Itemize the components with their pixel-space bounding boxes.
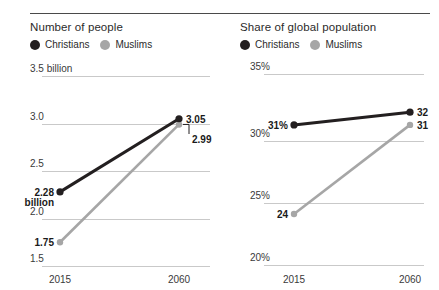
series-point-christians-2015 [56, 188, 63, 195]
series-point-christians-2060-share [406, 109, 413, 116]
legend-label-muslims: Muslims [325, 39, 362, 50]
datapoint-label-1-75: 1.75 [35, 237, 54, 248]
legend-dot-christians-icon [30, 40, 40, 50]
chart-page: Number of people Christians Muslims 3.5 … [0, 0, 439, 290]
panel-title-number-of-people: Number of people [30, 21, 123, 33]
legend-label-muslims: Muslims [115, 39, 152, 50]
datapoint-label-31pct: 31% [268, 119, 288, 130]
datapoint-label-2-28: 2.28 [35, 186, 54, 197]
series-point-muslims-2015 [57, 239, 63, 245]
legend-share-of-global-population: Christians Muslims [240, 39, 362, 50]
series-line-christians [60, 119, 179, 192]
series-line-christians-share [294, 112, 410, 125]
datapoint-label-31: 31 [417, 119, 428, 130]
series-line-muslims-share [294, 125, 410, 214]
series-lines-share-of-global-population [264, 60, 424, 270]
legend-label-christians: Christians [255, 39, 299, 50]
legend-dot-muslims-icon [310, 40, 320, 50]
xtick-label-2015: 2015 [283, 274, 305, 285]
datapoint-sublabel-billion: billion [25, 197, 54, 208]
legend-number-of-people: Christians Muslims [30, 39, 152, 50]
series-point-christians-2015-share [290, 121, 297, 128]
legend-item-muslims-share: Muslims [310, 39, 362, 50]
panel-number-of-people: Number of people Christians Muslims 3.5 … [0, 0, 220, 290]
legend-item-christians-share: Christians [240, 39, 299, 50]
plot-area-number-of-people: 3.5 billion 3.0 2.5 2.0 1.5 2015 2060 2.… [42, 60, 210, 270]
callout-leader-2-99 [183, 124, 189, 134]
series-line-muslims [60, 124, 179, 242]
xtick-label-2015: 2015 [49, 274, 71, 285]
series-point-christians-2060 [175, 115, 182, 122]
datapoint-label-3-05: 3.05 [186, 113, 205, 124]
xtick-label-2060: 2060 [168, 274, 190, 285]
datapoint-label-32: 32 [417, 107, 428, 118]
plot-area-share-of-global-population: 35% 30% 25% 20% 2015 2060 31% 24 32 31 [264, 60, 424, 270]
datapoint-label-24: 24 [277, 209, 288, 220]
series-lines-number-of-people [42, 60, 210, 270]
legend-dot-christians-icon [240, 40, 250, 50]
legend-item-christians: Christians [30, 39, 89, 50]
legend-dot-muslims-icon [100, 40, 110, 50]
xtick-label-2060: 2060 [399, 274, 421, 285]
series-point-muslims-2060-share [407, 122, 413, 128]
legend-item-muslims: Muslims [100, 39, 152, 50]
datapoint-label-2-99: 2.99 [192, 134, 211, 145]
legend-label-christians: Christians [45, 39, 89, 50]
panel-title-share-of-global-population: Share of global population [240, 21, 376, 33]
series-point-muslims-2015-share [291, 211, 297, 217]
